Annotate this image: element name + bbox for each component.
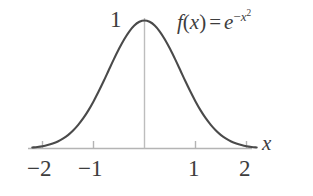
x-axis-label: x — [262, 133, 271, 154]
gaussian-figure: 1 −2 −1 1 2 x f(x)=e−x2 — [0, 0, 313, 196]
formula-exponent-power: 2 — [246, 8, 251, 18]
formula-exponent-sign: − — [233, 9, 240, 24]
x-tick-label-pos1: 1 — [188, 157, 200, 180]
formula-equals-sign: = — [206, 10, 224, 34]
formula-base: e — [224, 10, 233, 34]
formula-open-paren: ( — [183, 10, 190, 34]
x-tick-label-neg1: −1 — [78, 157, 102, 180]
y-axis-peak-label: 1 — [110, 8, 122, 31]
formula-variable: x — [190, 10, 199, 34]
x-tick-label-pos2: 2 — [239, 157, 251, 180]
x-tick-label-neg2: −2 — [27, 157, 51, 180]
formula-exponent: −x2 — [233, 9, 251, 24]
function-formula-annotation: f(x)=e−x2 — [177, 12, 251, 33]
